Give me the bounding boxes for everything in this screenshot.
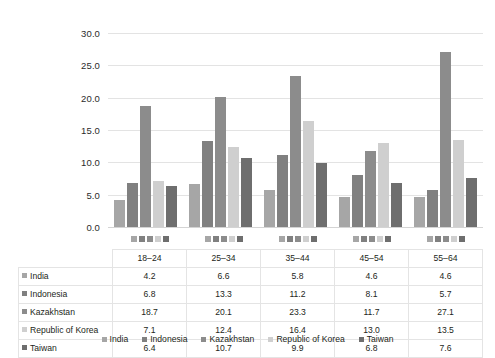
bar-group-35–44 [258, 0, 333, 240]
table-swatch-cell-45–54 [335, 232, 409, 249]
bar-kazakhstan-18–24 [140, 106, 151, 227]
swatch-icon-indonesia [139, 236, 145, 242]
swatch-icon-kazakhstan [443, 236, 449, 242]
y-axis-tick-25.0: 25.0 [81, 60, 100, 71]
swatch-icon-republic-of-korea [451, 236, 457, 242]
swatch-icon-taiwan [385, 236, 391, 242]
table-swatch-cell-25–34 [187, 232, 261, 249]
table-cell-indonesia-35–44: 11.2 [261, 285, 335, 303]
table-cell-indonesia-55–64: 5.7 [409, 285, 483, 303]
bar-group-55–64 [408, 0, 483, 240]
bar-india-18–24 [114, 200, 125, 227]
bar-kazakhstan-55–64 [440, 52, 451, 227]
swatch-icon-india [131, 236, 137, 242]
bar-indonesia-35–44 [277, 155, 288, 227]
table-cell-india-18–24: 4.2 [113, 267, 187, 285]
series-swatch-icon-taiwan [22, 345, 27, 350]
legend-item-kazakhstan[interactable]: Kazakhstan [201, 334, 254, 344]
table-swatch-cell-18–24 [113, 232, 187, 249]
swatch-icon-indonesia [435, 236, 441, 242]
bar-india-35–44 [264, 190, 275, 228]
table-row-label-indonesia: Indonesia [19, 285, 113, 303]
swatch-icon-indonesia [361, 236, 367, 242]
bar-taiwan-45–54 [391, 183, 402, 227]
table-cell-kazakhstan-45–54: 11.7 [335, 303, 409, 321]
swatch-icon-republic-of-korea [155, 236, 161, 242]
series-swatch-icon-kazakhstan [22, 309, 27, 314]
swatch-icon-kazakhstan [295, 236, 301, 242]
table-row-label-india: India [19, 267, 113, 285]
table-cell-kazakhstan-18–24: 18.7 [113, 303, 187, 321]
table-row: Indonesia6.813.311.28.15.7 [19, 285, 483, 303]
legend-item-taiwan[interactable]: Taiwan [359, 334, 394, 344]
bar-taiwan-18–24 [166, 186, 177, 227]
swatch-icon-taiwan [163, 236, 169, 242]
bar-taiwan-35–44 [316, 163, 327, 227]
table-header-55–64: 55–64 [409, 249, 483, 267]
legend-swatch-icon-republic-of-korea [268, 337, 273, 342]
swatch-icon-taiwan [311, 236, 317, 242]
bar-indonesia-55–64 [427, 190, 438, 227]
legend-item-indonesia[interactable]: Indonesia [142, 334, 187, 344]
bar-india-45–54 [339, 197, 350, 227]
bar-republic-of-korea-18–24 [153, 181, 164, 227]
table-cell-india-45–54: 4.6 [335, 267, 409, 285]
bar-kazakhstan-35–44 [290, 76, 301, 227]
legend-item-india[interactable]: India [102, 334, 129, 344]
series-name-text: Republic of Korea [30, 325, 98, 335]
swatch-icon-india [205, 236, 211, 242]
swatch-icon-kazakhstan [147, 236, 153, 242]
table-cell-indonesia-18–24: 6.8 [113, 285, 187, 303]
series-name-text: India [30, 271, 49, 281]
swatch-icon-india [353, 236, 359, 242]
swatch-icon-india [427, 236, 433, 242]
table-row: Kazakhstan18.720.123.311.727.1 [19, 303, 483, 321]
swatch-icon-republic-of-korea [377, 236, 383, 242]
swatch-icon-indonesia [287, 236, 293, 242]
series-name-text: Taiwan [30, 343, 57, 353]
bar-republic-of-korea-45–54 [378, 143, 389, 227]
table-swatch-row [19, 232, 483, 249]
bar-india-55–64 [414, 197, 425, 227]
table-header-18–24: 18–24 [113, 249, 187, 267]
table-cell-kazakhstan-25–34: 20.1 [187, 303, 261, 321]
legend-label: Republic of Korea [276, 334, 344, 344]
series-swatch-icon-indonesia [22, 291, 27, 296]
table-header-35–44: 35–44 [261, 249, 335, 267]
table-header-25–34: 25–34 [187, 249, 261, 267]
bar-india-25–34 [189, 184, 200, 227]
swatch-icon-india [279, 236, 285, 242]
swatch-icon-republic-of-korea [229, 236, 235, 242]
bar-indonesia-45–54 [352, 175, 363, 227]
series-swatch-icon-republic-of-korea [22, 327, 27, 332]
swatch-icon-indonesia [213, 236, 219, 242]
y-axis-tick-20.0: 20.0 [81, 92, 100, 103]
table-row-label-kazakhstan: Kazakhstan [19, 303, 113, 321]
table-row: India4.26.65.84.64.6 [19, 267, 483, 285]
table-corner-cell [19, 232, 113, 249]
bar-indonesia-18–24 [127, 183, 138, 227]
legend-item-republic-of-korea[interactable]: Republic of Korea [268, 334, 344, 344]
bar-kazakhstan-25–34 [215, 97, 226, 227]
table-cell-kazakhstan-35–44: 23.3 [261, 303, 335, 321]
bar-taiwan-55–64 [466, 178, 477, 227]
chart-legend: IndiaIndonesiaKazakhstanRepublic of Kore… [0, 334, 495, 344]
table-cell-india-55–64: 4.6 [409, 267, 483, 285]
legend-swatch-icon-indonesia [142, 337, 147, 342]
table-cell-indonesia-45–54: 8.1 [335, 285, 409, 303]
legend-label: India [110, 334, 129, 344]
table-header-45–54: 45–54 [335, 249, 409, 267]
legend-label: Indonesia [150, 334, 187, 344]
legend-label: Taiwan [367, 334, 394, 344]
bar-republic-of-korea-35–44 [303, 121, 314, 227]
table-swatch-cell-35–44 [261, 232, 335, 249]
y-axis-tick-labels: 30.025.020.015.010.05.00.0 [60, 0, 106, 240]
bar-group-25–34 [183, 0, 258, 240]
table-cell-indonesia-25–34: 13.3 [187, 285, 261, 303]
bar-group-45–54 [333, 0, 408, 240]
bar-group-18–24 [108, 0, 183, 240]
swatch-icon-kazakhstan [369, 236, 375, 242]
series-name-text: Kazakhstan [30, 307, 75, 317]
swatch-icon-taiwan [459, 236, 465, 242]
series-swatch-icon-india [22, 273, 27, 278]
